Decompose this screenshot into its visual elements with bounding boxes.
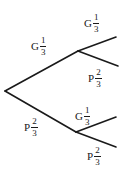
label-P-then-G: G 1 3: [75, 106, 90, 127]
event-letter: G: [75, 111, 83, 122]
label-first-P: P 2 3: [24, 117, 38, 138]
branch-G-then-G: [78, 37, 116, 51]
event-letter: G: [84, 18, 92, 29]
probability-fraction: 1 3: [93, 13, 100, 34]
label-G-then-P: P 2 3: [88, 68, 102, 89]
branch-first-G: [5, 51, 78, 91]
label-G-then-G: G 1 3: [84, 13, 99, 34]
event-letter: P: [88, 73, 94, 84]
probability-fraction: 2 3: [94, 146, 101, 167]
branch-first-P: [5, 91, 76, 132]
event-letter: P: [24, 122, 30, 133]
probability-fraction: 2 3: [95, 68, 102, 89]
label-first-G: G 1 3: [31, 36, 46, 57]
probability-fraction: 1 3: [84, 106, 91, 127]
event-letter: P: [87, 151, 93, 162]
probability-fraction: 2 3: [31, 117, 38, 138]
event-letter: G: [31, 41, 39, 52]
branch-G-then-P: [78, 51, 118, 66]
probability-fraction: 1 3: [40, 36, 47, 57]
tree-lines: [0, 0, 132, 171]
label-P-then-P: P 2 3: [87, 146, 101, 167]
